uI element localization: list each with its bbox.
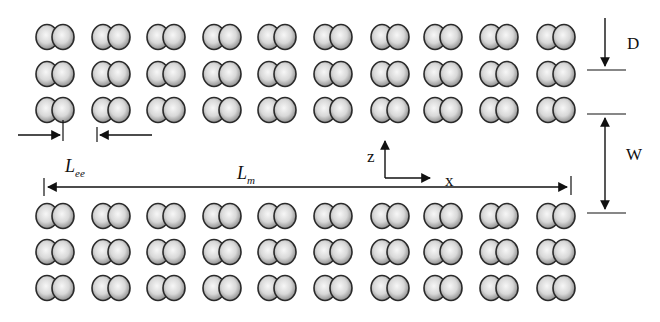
sphere xyxy=(274,240,296,265)
axis-z-label: z xyxy=(367,147,375,166)
sphere xyxy=(440,240,462,265)
sphere xyxy=(274,62,296,87)
electrode-pair xyxy=(203,204,241,229)
electrode-pair xyxy=(537,98,575,123)
electrode-pair xyxy=(480,98,518,123)
sphere xyxy=(274,276,296,301)
sphere xyxy=(163,204,185,229)
electrode-pair xyxy=(258,240,296,265)
electrode-pair xyxy=(480,62,518,87)
sphere xyxy=(387,240,409,265)
electrode-pair xyxy=(36,240,74,265)
label-l-ee-main: L xyxy=(64,156,75,176)
dimension-d: D xyxy=(587,18,639,70)
electrode-pair xyxy=(92,25,130,50)
sphere xyxy=(163,25,185,50)
electrode-pair xyxy=(258,62,296,87)
electrode-pair xyxy=(480,25,518,50)
sphere xyxy=(496,240,518,265)
electrode-pair xyxy=(314,240,352,265)
electrode-pair xyxy=(537,240,575,265)
electrode-pair xyxy=(36,62,74,87)
sphere xyxy=(553,62,575,87)
sphere xyxy=(387,98,409,123)
sphere xyxy=(274,98,296,123)
electrode-pair xyxy=(537,25,575,50)
electrode-pair xyxy=(314,276,352,301)
sphere xyxy=(108,204,130,229)
label-w: W xyxy=(626,145,643,164)
electrode-pair xyxy=(424,204,462,229)
sphere xyxy=(219,276,241,301)
electrode-pair xyxy=(258,276,296,301)
sphere xyxy=(219,240,241,265)
electrode-pair xyxy=(537,276,575,301)
sphere xyxy=(330,204,352,229)
electrode-pair xyxy=(92,240,130,265)
sphere xyxy=(219,25,241,50)
axis-x-label: x xyxy=(445,171,454,190)
electrode-pair xyxy=(371,276,409,301)
dimension-w: W xyxy=(587,114,643,213)
sphere xyxy=(553,204,575,229)
electrode-pair xyxy=(147,240,185,265)
bottom-array xyxy=(36,204,575,301)
sphere xyxy=(108,25,130,50)
label-l-ee-sub: ee xyxy=(75,167,85,179)
electrode-pair xyxy=(314,62,352,87)
sphere xyxy=(496,62,518,87)
electrode-pair xyxy=(147,276,185,301)
sphere xyxy=(553,98,575,123)
electrode-pair xyxy=(424,98,462,123)
electrode-pair xyxy=(147,204,185,229)
sphere xyxy=(108,62,130,87)
electrode-pair xyxy=(147,62,185,87)
sphere xyxy=(330,62,352,87)
sphere xyxy=(330,98,352,123)
sphere xyxy=(52,62,74,87)
sphere xyxy=(553,25,575,50)
electrode-pair xyxy=(203,25,241,50)
sphere xyxy=(440,62,462,87)
sphere xyxy=(163,62,185,87)
sphere xyxy=(553,276,575,301)
electrode-pair xyxy=(537,62,575,87)
electrode-arrays xyxy=(36,25,575,301)
electrode-pair xyxy=(258,204,296,229)
electrode-pair xyxy=(480,240,518,265)
electrode-pair xyxy=(203,240,241,265)
electrode-pair xyxy=(537,204,575,229)
electrode-pair xyxy=(371,25,409,50)
electrode-pair xyxy=(147,25,185,50)
electrode-pair xyxy=(371,98,409,123)
sphere xyxy=(387,25,409,50)
sphere xyxy=(52,276,74,301)
label-l-m-sub: m xyxy=(247,174,255,186)
electrode-pair xyxy=(92,204,130,229)
sphere xyxy=(108,98,130,123)
electrode-pair xyxy=(371,204,409,229)
sphere xyxy=(440,98,462,123)
dimension-l-ee: Lee xyxy=(18,120,152,179)
sphere xyxy=(274,25,296,50)
electrode-pair xyxy=(203,98,241,123)
sphere xyxy=(219,98,241,123)
sphere xyxy=(52,98,74,123)
electrode-pair xyxy=(314,204,352,229)
sphere xyxy=(108,276,130,301)
electrode-pair xyxy=(424,276,462,301)
electrode-pair xyxy=(36,98,74,123)
sphere xyxy=(52,204,74,229)
electrode-pair xyxy=(314,98,352,123)
sphere xyxy=(496,204,518,229)
coordinate-axes: z x xyxy=(367,141,454,190)
dimension-l-m: Lm xyxy=(44,163,571,196)
sphere xyxy=(496,98,518,123)
sphere xyxy=(496,25,518,50)
electrode-pair xyxy=(92,98,130,123)
sphere xyxy=(440,204,462,229)
sphere xyxy=(387,62,409,87)
electrode-pair xyxy=(203,276,241,301)
sphere xyxy=(553,240,575,265)
sphere xyxy=(108,240,130,265)
